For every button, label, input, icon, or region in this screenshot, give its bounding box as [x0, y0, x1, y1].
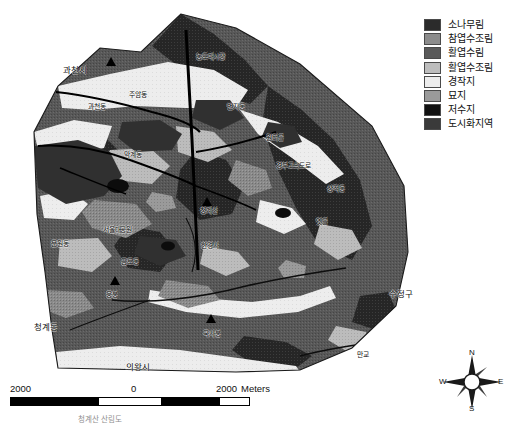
compass-label-north: N — [469, 348, 475, 357]
map-scale-bar: 2000 0 2000 Meters — [10, 383, 260, 406]
legend-label-mixed-plantation: 참엽수조림 — [448, 33, 493, 45]
compass-label-east: E — [498, 377, 503, 386]
scale-bar-track — [10, 397, 250, 406]
scale-bar-labels: 2000 0 2000 Meters — [10, 383, 260, 395]
legend-item-farmland: 경작지 — [424, 75, 520, 89]
compass-rose: N E S W — [437, 349, 507, 415]
legend-item-cemetery: 묘지 — [424, 89, 520, 103]
legend-swatch-broadleaf-forest — [424, 47, 441, 59]
compass-label-south: S — [469, 404, 474, 413]
legend-label-broadleaf-plantation: 활엽수조림 — [448, 62, 493, 74]
legend-swatch-reservoir — [424, 104, 441, 116]
legend-label-reservoir: 저수지 — [448, 104, 475, 116]
legend-swatch-farmland — [424, 76, 441, 88]
legend-swatch-mixed-plantation — [424, 33, 441, 45]
water-reservoir-2 — [275, 208, 291, 218]
legend-item-urban: 도시화지역 — [424, 117, 520, 131]
scale-label-left: 2000 — [10, 383, 31, 394]
legend-label-urban: 도시화지역 — [448, 118, 493, 130]
legend-swatch-urban — [424, 118, 441, 130]
scale-seg-1 — [11, 398, 99, 405]
scale-seg-2 — [99, 398, 161, 405]
legend-item-broadleaf-plantation: 활엽수조림 — [424, 61, 520, 75]
landcover-urban-southeast — [372, 336, 416, 360]
compass-label-west: W — [439, 377, 447, 386]
scale-seg-3 — [161, 398, 221, 405]
figure-caption: 청계산 산림도 — [78, 413, 122, 424]
scale-label-right: 2000 — [216, 383, 237, 394]
water-reservoir-3 — [161, 242, 175, 251]
scale-label-mid: 0 — [131, 383, 136, 394]
peak-marker-cheonggyesan — [202, 197, 212, 206]
legend-item-reservoir: 저수지 — [424, 103, 520, 117]
legend-swatch-broadleaf-plantation — [424, 62, 441, 74]
legend-item-broadleaf-forest: 활엽수림 — [424, 46, 520, 60]
scale-label-units: Meters — [241, 383, 270, 394]
legend-swatch-pine-forest — [424, 19, 441, 31]
peak-marker-ungbong — [110, 276, 120, 285]
scale-seg-4 — [220, 398, 249, 405]
legend-item-mixed-plantation: 참엽수조림 — [424, 32, 520, 46]
legend-label-cemetery: 묘지 — [448, 90, 466, 102]
map-legend: 소나무림 참엽수조림 활엽수림 활엽수조림 경작지 묘지 저수지 도시화지역 — [424, 18, 520, 132]
peak-marker-gwanaksan — [106, 57, 116, 66]
legend-label-broadleaf-forest: 활엽수림 — [448, 47, 484, 59]
legend-label-farmland: 경작지 — [448, 76, 475, 88]
legend-label-pine-forest: 소나무림 — [448, 19, 484, 31]
legend-swatch-cemetery — [424, 90, 441, 102]
legend-item-pine-forest: 소나무림 — [424, 18, 520, 32]
peak-marker-gooksabong — [206, 314, 216, 323]
